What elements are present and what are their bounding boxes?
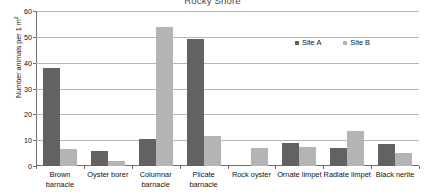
bar-site-a[interactable] bbox=[91, 151, 108, 167]
x-axis-label: Columnar barnacle bbox=[132, 168, 180, 195]
bar-group bbox=[180, 11, 228, 166]
x-axis-label: Black nerite bbox=[371, 168, 419, 195]
x-axis-label: Ornate limpet bbox=[275, 168, 323, 195]
bar-site-a[interactable] bbox=[187, 39, 204, 166]
y-tick-label: 50 bbox=[24, 32, 32, 41]
y-tick-label: 30 bbox=[24, 84, 32, 93]
legend-swatch-icon-site-b bbox=[343, 41, 347, 45]
bar-group bbox=[132, 11, 180, 166]
y-axis-title: Number animals per 1 m2 bbox=[13, 0, 23, 122]
x-axis-category-labels: Brown barnacleOyster borerColumnar barna… bbox=[36, 168, 419, 195]
legend-swatch-icon-site-a bbox=[295, 41, 299, 45]
plot-inner: 0102030405060 bbox=[36, 11, 419, 166]
x-tick-mark bbox=[419, 166, 420, 169]
bar-group bbox=[84, 11, 132, 166]
chart-title: Rocky Shore bbox=[0, 0, 425, 6]
y-tick-label: 40 bbox=[24, 58, 32, 67]
rocky-shore-bar-chart: Rocky Shore Number animals per 1 m2 0102… bbox=[0, 0, 425, 195]
y-tick-label: 0 bbox=[28, 162, 32, 171]
bar-group bbox=[371, 11, 419, 166]
x-axis-label: Brown barnacle bbox=[36, 168, 84, 195]
bar-site-a[interactable] bbox=[282, 143, 299, 166]
bar-site-a[interactable] bbox=[330, 148, 347, 166]
legend-label-site-b: Site B bbox=[350, 38, 370, 47]
y-tick-label: 20 bbox=[24, 110, 32, 119]
bar-group bbox=[228, 11, 276, 166]
chart-legend: Site A Site B bbox=[295, 38, 370, 47]
bar-group bbox=[36, 11, 84, 166]
bar-site-a[interactable] bbox=[378, 144, 395, 166]
legend-label-site-a: Site A bbox=[302, 38, 321, 47]
x-axis-label: Plicate barnacle bbox=[180, 168, 228, 195]
bar-site-b[interactable] bbox=[108, 161, 125, 166]
y-tick-label: 10 bbox=[24, 136, 32, 145]
bar-site-a[interactable] bbox=[43, 68, 60, 166]
legend-entry-site-b: Site B bbox=[343, 38, 370, 47]
bar-site-b[interactable] bbox=[204, 136, 221, 166]
bar-group bbox=[323, 11, 371, 166]
x-axis-label: Radiate limpet bbox=[323, 168, 371, 195]
bar-group bbox=[275, 11, 323, 166]
plot-area: 0102030405060 bbox=[36, 11, 419, 166]
y-axis-title-text: Number animals per 1 m bbox=[14, 19, 23, 98]
x-axis-label: Rock oyster bbox=[228, 168, 276, 195]
y-axis-title-superscript: 2 bbox=[13, 16, 19, 19]
x-axis-label: Oyster borer bbox=[84, 168, 132, 195]
bar-groups bbox=[36, 11, 419, 166]
bar-site-b[interactable] bbox=[60, 149, 77, 166]
bar-site-b[interactable] bbox=[299, 147, 316, 166]
bar-site-b[interactable] bbox=[395, 153, 412, 166]
bar-site-b[interactable] bbox=[251, 148, 268, 166]
bar-site-a[interactable] bbox=[139, 139, 156, 166]
bar-site-b[interactable] bbox=[347, 131, 364, 166]
legend-entry-site-a: Site A bbox=[295, 38, 321, 47]
bar-site-b[interactable] bbox=[156, 27, 173, 167]
y-tick-label: 60 bbox=[24, 7, 32, 16]
